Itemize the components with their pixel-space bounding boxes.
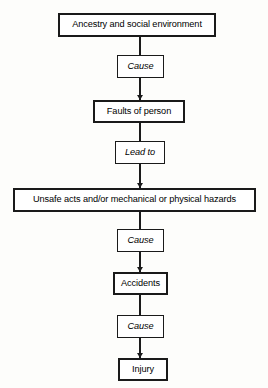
edge-faults-to-leadto [139,123,140,141]
node-label: Injury [130,365,156,375]
edge-accidents-to-cause3 [139,295,140,315]
stage-box-unsafe: Unsafe acts and/or mechanical or physica… [13,188,256,212]
node-label: Unsafe acts and/or mechanical or physica… [31,195,238,205]
edge-ancestry-to-cause1 [139,37,140,55]
connector-box-cause2: Cause [117,229,164,252]
node-label: Lead to [123,148,157,158]
stage-box-injury: Injury [118,358,168,381]
stage-box-ancestry: Ancestry and social environment [58,13,216,37]
connector-box-leadto: Lead to [115,141,165,164]
accident-causation-flowchart: Ancestry and social environmentCauseFaul… [0,0,268,388]
stage-box-accidents: Accidents [113,272,168,295]
stage-box-faults: Faults of person [93,100,185,123]
node-label: Ancestry and social environment [70,20,204,30]
node-label: Faults of person [105,107,173,117]
edge-unsafe-to-cause2 [139,212,140,229]
node-label: Cause [125,322,155,332]
connector-box-cause1: Cause [117,55,164,78]
node-label: Cause [125,62,155,72]
node-label: Accidents [119,279,162,289]
connector-box-cause3: Cause [117,315,164,338]
node-label: Cause [125,236,155,246]
